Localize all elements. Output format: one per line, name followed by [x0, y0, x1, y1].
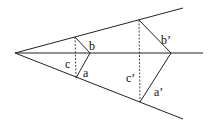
segment-c-prime-dashed	[139, 20, 140, 102]
label-c-prime: c’	[126, 71, 135, 85]
label-b: b	[89, 39, 95, 53]
similar-triangles-diagram: b c a b’ c’ a’	[0, 0, 212, 126]
segment-b	[75, 37, 90, 53]
upper-ray	[15, 8, 183, 53]
label-a-prime: a’	[154, 85, 163, 99]
segment-c-dashed	[75, 37, 76, 78]
label-c: c	[65, 57, 70, 71]
label-a: a	[83, 66, 89, 80]
label-b-prime: b’	[161, 33, 171, 47]
